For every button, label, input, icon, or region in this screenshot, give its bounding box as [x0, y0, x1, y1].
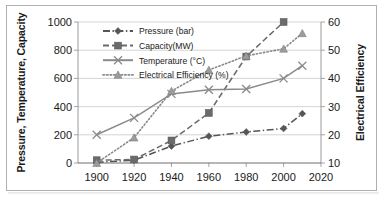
x-axis-tick-label: 1980 — [234, 171, 258, 183]
y-axis-tick-label: 800 — [54, 44, 72, 56]
legend-label-0: Pressure (bar) — [139, 26, 194, 36]
y-axis-title: Pressure, Temperature, Capacity — [15, 12, 27, 172]
x-axis-tick-label: 1900 — [84, 171, 108, 183]
figure-shadow — [8, 192, 379, 195]
y2-axis-tick-label: 40 — [328, 72, 340, 84]
y2-axis-tick-label: 60 — [328, 16, 340, 28]
series-marker-2 — [298, 62, 306, 70]
series-marker-1 — [131, 156, 138, 163]
x-axis-tick-label: 2000 — [271, 171, 295, 183]
y2-axis-tick-label: 20 — [328, 129, 340, 141]
chart-figure: 0200400600800100010203040506019001920194… — [6, 5, 377, 191]
series-line-3 — [97, 33, 303, 163]
y-axis-tick-label: 400 — [54, 101, 72, 113]
y-axis-tick-label: 1000 — [48, 16, 72, 28]
legend-label-1: Capacity(MW) — [139, 41, 194, 51]
legend-marker-0 — [115, 28, 122, 35]
series-marker-1 — [205, 110, 212, 117]
chart-plot-area: 0200400600800100010203040506019001920194… — [7, 6, 376, 190]
y-axis-tick-label: 600 — [54, 72, 72, 84]
x-axis-tick-label: 1920 — [122, 171, 146, 183]
x-axis-tick-label: 2020 — [309, 171, 333, 183]
series-marker-0 — [205, 133, 212, 140]
y-axis-tick-label: 200 — [54, 129, 72, 141]
series-marker-2 — [130, 114, 138, 122]
y-axis-tick-label: 0 — [66, 157, 72, 169]
series-marker-1 — [280, 19, 287, 26]
legend-label-3: Electrical Efficiency (%) — [139, 70, 229, 80]
series-marker-3 — [298, 29, 306, 36]
x-axis-tick-label: 1940 — [159, 171, 183, 183]
legend-label-2: Temperature (°C) — [139, 56, 205, 66]
legend-marker-1 — [115, 42, 122, 49]
series-marker-1 — [168, 137, 175, 144]
y2-axis-title: Electrical Efficiency — [354, 44, 366, 141]
x-axis-tick-label: 1960 — [197, 171, 221, 183]
series-marker-0 — [243, 129, 250, 136]
y2-axis-tick-label: 10 — [328, 157, 340, 169]
y2-axis-tick-label: 50 — [328, 44, 340, 56]
y2-axis-tick-label: 30 — [328, 101, 340, 113]
